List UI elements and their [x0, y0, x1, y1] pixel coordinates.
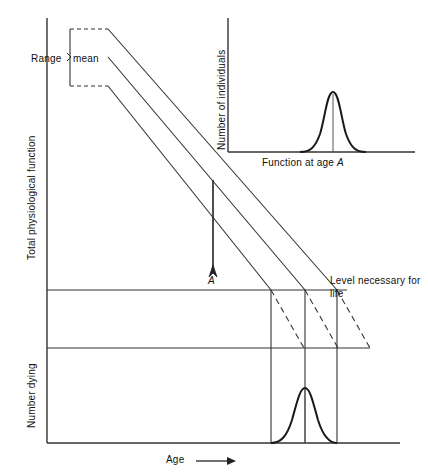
threshold-label: Level necessary for life — [330, 275, 426, 300]
age-A-marker — [209, 180, 217, 277]
bottom-axes — [47, 348, 400, 443]
age-axis-arrow — [196, 457, 236, 465]
main-axes — [47, 18, 370, 348]
inset-x-axis-label-italic: A — [337, 157, 344, 168]
age-A-label: A — [208, 275, 215, 286]
decline-line-mean — [108, 57, 305, 290]
inset-x-axis-label-text: Function at age — [262, 157, 337, 168]
mortality-gaussian-path — [271, 388, 337, 443]
inset-y-axis-label: Number of individuals — [216, 50, 227, 150]
range-label: Range — [31, 53, 61, 64]
inset-panel — [228, 18, 415, 152]
mean-label: mean — [73, 53, 99, 64]
main-y-axis-label: Total physiological function — [26, 135, 37, 260]
age-arrow-head-icon — [227, 457, 236, 465]
decline-dashed-lower — [271, 290, 304, 348]
figure-root: Total physiological function Range mean … — [0, 0, 428, 476]
decline-line-lower — [108, 86, 271, 290]
projection-drop-lines — [271, 290, 337, 443]
figure-canvas — [0, 0, 428, 476]
bottom-y-axis-label: Number dying — [26, 363, 37, 428]
bottom-x-axis-label: Age — [166, 454, 184, 465]
inset-x-axis-label: Function at age A — [262, 157, 344, 168]
mortality-curve — [271, 388, 337, 443]
